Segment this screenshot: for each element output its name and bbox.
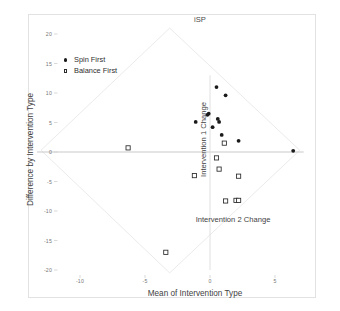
data-point: [214, 156, 218, 160]
y-tick-label: -15: [36, 238, 52, 244]
data-point: [222, 141, 226, 145]
data-point: [291, 149, 295, 153]
y-tick-label: -5: [36, 179, 52, 185]
x-tick-label: 0: [200, 278, 220, 284]
y-axis-title: Difference by Intervention Type: [26, 60, 35, 240]
data-point: [237, 139, 241, 143]
data-point: [224, 93, 228, 97]
data-point: [224, 199, 228, 203]
filled-circle-icon: [60, 55, 71, 64]
data-point: [211, 125, 215, 129]
data-point: [126, 146, 130, 150]
y-tick-label: 10: [36, 90, 52, 96]
y-tick-label: 15: [36, 61, 52, 67]
data-point: [164, 250, 168, 254]
data-point: [237, 198, 241, 202]
legend-label: Balance First: [74, 66, 117, 75]
data-point: [217, 167, 221, 171]
data-point: [237, 174, 241, 178]
chart-legend: Spin First Balance First: [60, 54, 117, 76]
data-point: [215, 85, 219, 89]
data-point: [194, 120, 198, 124]
y-tick-label: 0: [36, 149, 52, 155]
scatter-plot-canvas: [0, 0, 340, 311]
inner-y-axis-title: Intervention 1 Change: [199, 85, 208, 195]
data-point: [192, 174, 196, 178]
x-tick-label: 5: [265, 278, 285, 284]
inner-x-axis-title: Intervention 2 Change: [168, 215, 298, 224]
reference-lines: [37, 75, 304, 270]
legend-item-spin-first: Spin First: [60, 54, 117, 65]
data-points: [126, 85, 295, 254]
y-tick-label: -10: [36, 208, 52, 214]
x-axis-title: Mean of Intervention Type: [110, 289, 280, 298]
data-point: [217, 120, 221, 124]
y-tick-label: 5: [36, 120, 52, 126]
chart-figure: iSP 20151050-5-10-15-20 -10-505 Differen…: [0, 0, 340, 311]
y-tick-label: -20: [36, 267, 52, 273]
x-tick-label: -5: [135, 278, 155, 284]
legend-item-balance-first: Balance First: [60, 65, 117, 76]
data-point: [220, 133, 224, 137]
x-tick-label: -10: [70, 278, 90, 284]
y-tick-label: 20: [36, 31, 52, 37]
legend-label: Spin First: [74, 55, 105, 64]
open-square-icon: [60, 66, 71, 75]
